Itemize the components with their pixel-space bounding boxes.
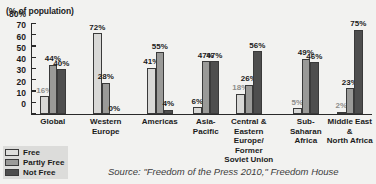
- plot-area: 80%70605040302010016%44%40%72%28%0%41%55…: [31, 24, 372, 114]
- y-axis-tick-label: 40: [0, 54, 26, 64]
- bar-slot: 18%: [236, 24, 245, 114]
- bar-slot: 44%: [49, 24, 58, 114]
- y-axis-line: [31, 24, 32, 114]
- bar: [253, 51, 262, 114]
- y-axis-tick: [31, 113, 36, 114]
- bar-value-label: 46%: [306, 53, 322, 61]
- press-freedom-bar-chart: (% of population) 80%70605040302010016%4…: [0, 0, 376, 184]
- y-axis-tick-label: 80%: [0, 9, 26, 19]
- bar-slot: 40%: [57, 24, 66, 114]
- y-axis-tick-label: 70: [0, 20, 26, 30]
- x-axis-category-label: Global: [26, 117, 80, 127]
- bar-slot: 5%: [293, 24, 302, 114]
- bar: [293, 108, 302, 114]
- y-axis-tick: [31, 57, 36, 58]
- bar-slot: 47%: [210, 24, 219, 114]
- bar-value-label: 47%: [206, 52, 222, 60]
- x-axis-category-label: Middle East & North Africa: [323, 117, 376, 146]
- bar: [164, 110, 173, 115]
- legend-label-free: Free: [23, 148, 40, 157]
- y-axis-tick: [31, 23, 36, 24]
- bar: [210, 61, 219, 114]
- legend-label-partly-free: Partly Free: [23, 158, 64, 167]
- bar-slot: 26%: [245, 24, 254, 114]
- bar: [40, 96, 49, 114]
- bar-value-label: 56%: [249, 42, 265, 50]
- y-axis-tick: [31, 79, 36, 80]
- bar-slot: 72%: [93, 24, 102, 114]
- bar: [245, 85, 254, 114]
- y-axis-tick: [31, 68, 36, 69]
- legend-label-not-free: Not Free: [23, 168, 55, 177]
- bar-slot: 28%: [102, 24, 111, 114]
- legend-item-partly-free: Partly Free: [5, 158, 64, 167]
- y-axis-tick-label: 20: [0, 77, 26, 87]
- bar-slot: 41%: [147, 24, 156, 114]
- bar-value-label: 4%: [162, 100, 174, 108]
- x-axis-category-label: Western Europe: [79, 117, 133, 136]
- bar-slot: 6%: [193, 24, 202, 114]
- x-axis-category-label: Americas: [133, 117, 187, 127]
- bar-slot: 75%: [354, 24, 363, 114]
- bar: [354, 30, 363, 114]
- legend-item-not-free: Not Free: [5, 168, 64, 177]
- y-axis-tick: [31, 102, 36, 103]
- y-axis-tick-label: 30: [0, 65, 26, 75]
- bar-slot: 0%: [110, 24, 119, 114]
- y-axis-tick: [31, 34, 36, 35]
- bar-group-bars: 6%47%47%: [193, 24, 219, 114]
- bar: [193, 107, 202, 114]
- bar-slot: 4%: [164, 24, 173, 114]
- y-axis-tick-label: 0: [0, 99, 26, 109]
- legend-swatch-partly-free-icon: [5, 159, 19, 167]
- legend-item-free: Free: [5, 148, 64, 157]
- bar-value-label: 0%: [108, 105, 120, 113]
- y-axis-tick-label: 60: [0, 32, 26, 42]
- bar: [49, 65, 58, 115]
- bar-group-bars: 16%44%40%: [40, 24, 66, 114]
- bar-slot: 16%: [40, 24, 49, 114]
- y-axis-tick: [31, 45, 36, 46]
- bar-group-bars: 2%23%75%: [337, 24, 363, 114]
- x-axis-category-label: Central & Eastern Europe/ Former Soviet …: [222, 117, 276, 165]
- y-axis-tick: [31, 90, 36, 91]
- bar-group-bars: 72%28%0%: [93, 24, 119, 114]
- bar: [236, 94, 245, 114]
- bar: [337, 112, 346, 114]
- bar-value-label: 75%: [350, 20, 366, 28]
- bar: [202, 61, 211, 114]
- bar-group-bars: 5%49%46%: [293, 24, 319, 114]
- bar: [346, 88, 355, 114]
- bar: [57, 69, 66, 114]
- y-axis-tick-label: 50: [0, 43, 26, 53]
- bar: [310, 62, 319, 114]
- bar: [147, 68, 156, 114]
- bar-group-bars: 41%55%4%: [147, 24, 173, 114]
- bar-value-label: 40%: [53, 60, 69, 68]
- source-note: Source: "Freedom of the Press 2010," Fre…: [108, 166, 339, 177]
- bar-group-bars: 18%26%56%: [236, 24, 262, 114]
- y-axis-tick-label: 10: [0, 88, 26, 98]
- legend-swatch-not-free-icon: [5, 169, 19, 177]
- bar-slot: 56%: [253, 24, 262, 114]
- bar-slot: 46%: [310, 24, 319, 114]
- bar: [302, 59, 311, 114]
- bar-slot: 2%: [337, 24, 346, 114]
- bar-slot: 47%: [202, 24, 211, 114]
- bar-slot: 49%: [302, 24, 311, 114]
- legend-swatch-free-icon: [5, 149, 19, 157]
- chart-legend: Free Partly Free Not Free: [3, 146, 68, 179]
- bar-slot: 23%: [346, 24, 355, 114]
